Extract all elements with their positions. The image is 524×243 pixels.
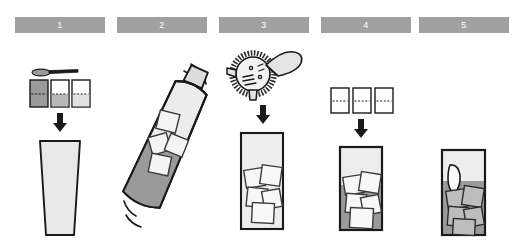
step-banner-2: 2 <box>117 17 207 33</box>
measure-glass-icon <box>375 88 393 113</box>
tapered-glass-icon <box>40 141 80 235</box>
step-column-5: 5 <box>414 0 514 243</box>
step-banner-3: 3 <box>219 17 309 33</box>
step-illustration-3 <box>214 33 314 243</box>
down-arrow-icon <box>354 119 368 138</box>
down-arrow-icon <box>53 113 67 132</box>
step-illustration-5 <box>414 33 514 243</box>
motion-lines-icon <box>124 201 141 227</box>
step-banner-5: 5 <box>419 17 509 33</box>
measure-glass-icon <box>331 88 349 113</box>
hawthorne-strainer-icon <box>227 52 302 100</box>
step-illustration-2 <box>112 33 212 243</box>
step-column-1: 1 <box>10 0 110 243</box>
measure-glass-icon <box>51 80 69 107</box>
measure-glass-icon <box>353 88 371 113</box>
step-1-artwork <box>10 33 110 243</box>
step-3-artwork <box>214 33 314 243</box>
step-column-4: 4 <box>316 0 416 243</box>
step-banner-4: 4 <box>321 17 411 33</box>
cocktail-steps-infographic: 1 <box>0 0 524 243</box>
measure-glass-icon <box>72 80 90 107</box>
step-2-artwork <box>112 33 212 243</box>
step-column-2: 2 <box>112 0 212 243</box>
step-illustration-4 <box>316 33 416 243</box>
step-banner-1: 1 <box>15 17 105 33</box>
bar-spoon-icon <box>32 69 78 76</box>
step-column-3: 3 <box>214 0 314 243</box>
down-arrow-icon <box>256 105 270 124</box>
step-illustration-1 <box>10 33 110 243</box>
measure-glass-icon <box>30 80 48 107</box>
step-4-artwork <box>316 33 416 243</box>
step-5-artwork <box>414 33 514 243</box>
